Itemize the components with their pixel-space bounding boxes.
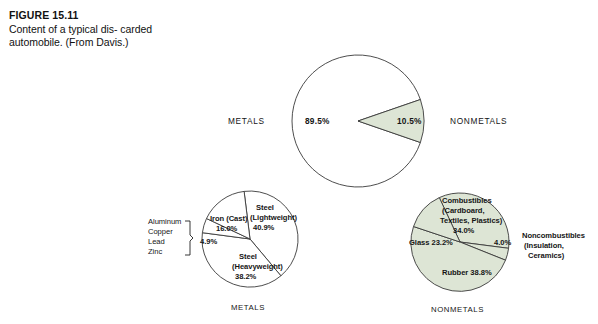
charts-canvas: METALS 89.5% 10.5% NONMETALS Steel (Ligh…: [0, 0, 598, 324]
overview-metals-label: METALS: [228, 116, 265, 126]
metals-steel-heavyweight-line2: (Heavyweight): [232, 262, 283, 271]
nonmetals-combustibles-percent: 34.0%: [453, 226, 475, 235]
overview-pie-chart: METALS 89.5% 10.5% NONMETALS: [228, 55, 507, 187]
metals-iron-cast-percent: 16.0%: [216, 224, 238, 233]
overview-nonmetals-percent: 10.5%: [397, 116, 422, 126]
nonmetals-chart-title: NONMETALS: [431, 305, 484, 314]
nonmetals-noncombustibles-line2: (Insulation,: [524, 241, 564, 250]
nonmetals-rubber-label: Rubber 38.8%: [442, 268, 492, 277]
nonmetals-glass-label: Glass 23.2%: [409, 238, 453, 247]
nonmetals-combustibles-line1: Combustibles: [442, 196, 492, 205]
nonmetals-combustibles-line3: Textiles, Plastics): [440, 216, 503, 225]
metals-bracket-lead: Lead: [148, 237, 165, 246]
metals-steel-lightweight-line1: Steel: [256, 203, 274, 212]
metals-iron-cast-label: Iron (Cast): [210, 214, 248, 223]
metals-bracket-copper: Copper: [148, 227, 173, 236]
metals-minor-bracket: [185, 221, 193, 255]
figure-container: FIGURE 15.11 Content of a typical dis- c…: [0, 0, 598, 324]
metals-chart-title: METALS: [231, 303, 265, 312]
metals-steel-heavyweight-line1: Steel: [239, 252, 257, 261]
nonmetals-pie-chart: Combustibles (Cardboard, Textiles, Plast…: [409, 193, 585, 314]
metals-steel-lightweight-percent: 40.9%: [253, 223, 275, 232]
overview-nonmetals-label: NONMETALS: [450, 116, 507, 126]
nonmetals-noncombustibles-line1: Noncombustibles: [522, 231, 585, 240]
metals-minor-percent: 4.9%: [200, 237, 217, 246]
metals-pie-chart: Steel (Lightweight) 40.9% Steel (Heavywe…: [148, 191, 298, 312]
nonmetals-combustibles-line2: (Cardboard,: [442, 206, 484, 215]
metals-bracket-zinc: Zinc: [148, 247, 162, 256]
nonmetals-noncombustibles-line3: Ceramics): [528, 251, 565, 260]
nonmetals-noncombustibles-percent: 4.0%: [494, 238, 511, 247]
metals-steel-heavyweight-percent: 38.2%: [235, 272, 257, 281]
overview-metals-percent: 89.5%: [305, 116, 330, 126]
metals-bracket-aluminum: Aluminum: [148, 217, 181, 226]
metals-steel-lightweight-line2: (Lightweight): [250, 213, 298, 222]
